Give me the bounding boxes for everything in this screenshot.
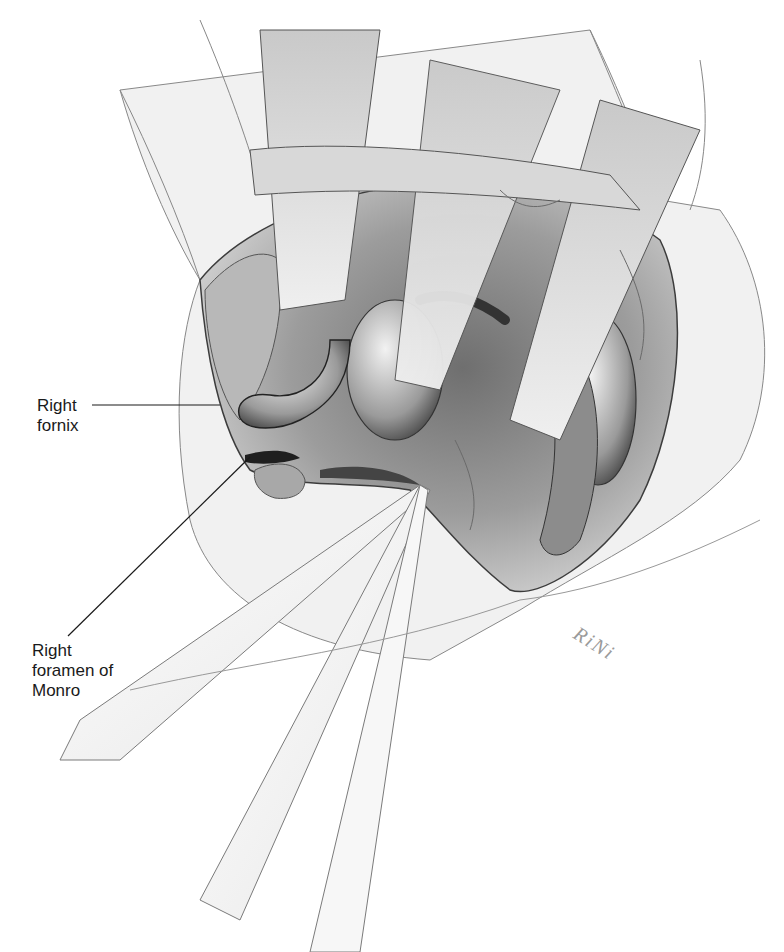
label-right-fornix: Right fornix — [37, 396, 79, 436]
anatomical-illustration — [0, 0, 784, 952]
label-right-foramen-of-monro: Right foramen of Monro — [32, 641, 113, 701]
